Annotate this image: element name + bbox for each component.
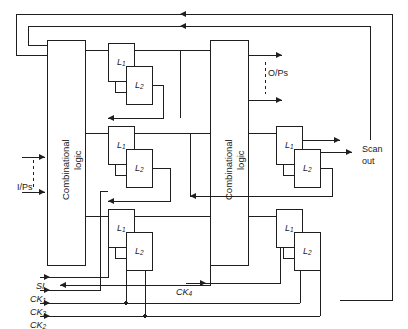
latch-label-left-mid-master: L1 [117, 140, 126, 150]
combinational-logic-right-line2: logic [235, 150, 246, 170]
latch-label-left-top-master: L1 [117, 57, 126, 67]
latch-label-left-mid-slave: L2 [135, 163, 144, 173]
latch-label-left-top-slave: L2 [135, 80, 144, 90]
latch-label-left-bottom-slave: L2 [135, 246, 144, 256]
latch-label-right-mid-master: L1 [285, 140, 294, 150]
outputs-label: O/Ps [268, 68, 288, 78]
signal-label-ck4: CK4 [166, 277, 192, 309]
scan-out-label-line1: Scan [362, 144, 383, 154]
inputs-label: I/Ps [17, 182, 33, 192]
combinational-logic-left-line1: Combinational [60, 139, 71, 200]
latch-label-right-mid-slave: L2 [303, 163, 312, 173]
latch-label-right-bottom-master: L1 [285, 223, 294, 233]
combinational-logic-right-line1: Combinational [223, 139, 234, 200]
latch-label-right-bottom-slave: L2 [303, 246, 312, 256]
signal-label-ck2: CK2 [20, 310, 46, 329]
figure-canvas: Combinational logic Combinational logic … [0, 0, 408, 329]
combinational-logic-left-line2: logic [72, 150, 83, 170]
latch-label-left-bottom-master: L1 [117, 223, 126, 233]
scan-out-label-line2: out [362, 156, 375, 166]
